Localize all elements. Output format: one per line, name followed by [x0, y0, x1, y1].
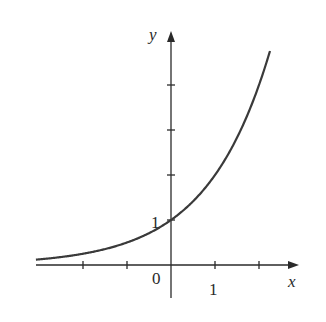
- y-tick-label-1: 1: [151, 213, 160, 232]
- axes: [36, 31, 299, 298]
- y-axis-label: y: [147, 25, 157, 44]
- chart-canvas: y x 0 1 1: [0, 0, 326, 322]
- x-axis-label: x: [287, 272, 296, 291]
- x-tick-label-1: 1: [209, 280, 218, 299]
- origin-label: 0: [152, 269, 161, 288]
- exponential-chart: y x 0 1 1: [0, 0, 326, 322]
- x-axis-arrow-icon: [288, 261, 299, 269]
- y-axis-arrow-icon: [167, 31, 175, 42]
